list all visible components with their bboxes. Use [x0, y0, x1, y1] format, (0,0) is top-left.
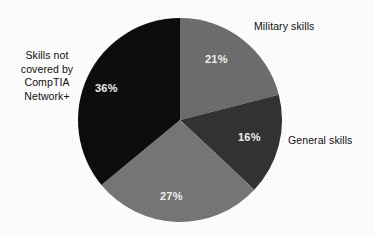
pie-label-general: General skills — [288, 134, 352, 148]
pie-label-not-covered: Skills not covered by CompTIA Network+ — [4, 49, 90, 103]
pie-value-general: 16% — [238, 131, 261, 143]
pie-value-other: 27% — [160, 190, 183, 202]
pie-chart: Military skills General skills Skills no… — [0, 0, 374, 235]
pie-chart-svg — [0, 0, 374, 235]
pie-label-military: Military skills — [254, 20, 314, 34]
pie-value-military: 21% — [205, 53, 228, 65]
pie-value-not-covered: 36% — [95, 82, 118, 94]
